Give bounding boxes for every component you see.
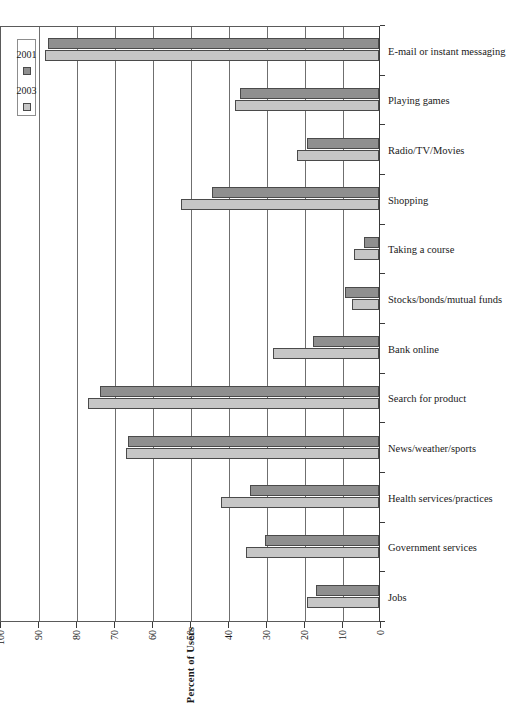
value-axis-tick-label: 100	[0, 630, 6, 645]
value-axis-tick-mark	[380, 622, 381, 628]
category-label: News/weather/sports	[388, 444, 476, 455]
bar-2001[interactable]	[128, 436, 379, 447]
bar-group	[1, 75, 379, 125]
category-axis-tick-mark	[380, 273, 385, 274]
bar-group	[1, 373, 379, 423]
value-axis-tick-mark	[266, 622, 267, 628]
category-label: Taking a course	[388, 246, 454, 257]
value-axis-tick-mark	[114, 622, 115, 628]
bar-group	[1, 472, 379, 522]
bar-2001[interactable]	[100, 386, 379, 397]
category-axis-tick-mark	[380, 25, 385, 26]
value-axis-tick-mark	[38, 622, 39, 628]
bar-2001[interactable]	[240, 88, 379, 99]
value-axis-tick-label: 20	[299, 630, 310, 640]
category-axis-tick-mark	[380, 373, 385, 374]
category-axis-tick-mark	[380, 571, 385, 572]
bar-2001[interactable]	[345, 287, 379, 298]
bar-2003[interactable]	[352, 299, 379, 310]
bar-group	[1, 26, 379, 75]
legend: 20032001	[17, 39, 36, 116]
plot-area: 20032001	[0, 26, 380, 622]
legend-label: 2003	[17, 85, 37, 96]
bar-group	[1, 323, 379, 373]
bar-2003[interactable]	[181, 199, 379, 210]
bar-2001[interactable]	[307, 138, 379, 149]
value-axis-tick-label: 50	[185, 630, 196, 640]
bar-group	[1, 422, 379, 472]
bar-group	[1, 124, 379, 174]
bar-2003[interactable]	[246, 547, 379, 558]
value-axis-tick-label: 0	[375, 630, 386, 635]
legend-entry[interactable]: 2001	[21, 44, 32, 75]
bar-2003[interactable]	[88, 398, 379, 409]
bar-2003[interactable]	[354, 249, 379, 260]
bar-2003[interactable]	[235, 100, 379, 111]
category-label: Jobs	[388, 593, 407, 604]
value-axis-tick-label: 60	[147, 630, 158, 640]
bar-group	[1, 522, 379, 572]
value-axis-tick-mark	[190, 622, 191, 628]
category-axis-tick-mark	[380, 621, 385, 622]
category-label: Health services/practices	[388, 494, 493, 505]
value-axis-title: Percent of Users	[0, 654, 380, 676]
bar-2001[interactable]	[316, 585, 379, 596]
bar-2003[interactable]	[307, 597, 379, 608]
value-axis-tick-label: 70	[109, 630, 120, 640]
legend-swatch-icon	[23, 103, 31, 111]
category-axis-tick-marks	[380, 26, 386, 622]
value-axis-tick-mark	[228, 622, 229, 628]
category-label: Government services	[388, 544, 477, 555]
category-axis-tick-mark	[380, 522, 385, 523]
bar-group	[1, 571, 379, 621]
value-axis-tick-label: 30	[261, 630, 272, 640]
category-label: Shopping	[388, 196, 428, 207]
value-axis-tick-label: 40	[223, 630, 234, 640]
category-label: Stocks/bonds/mutual funds	[388, 295, 502, 306]
legend-swatch-icon	[23, 67, 31, 75]
bar-2003[interactable]	[273, 348, 379, 359]
bar-2003[interactable]	[221, 497, 379, 508]
bar-2001[interactable]	[265, 535, 379, 546]
value-axis-tick-mark	[76, 622, 77, 628]
category-label: Playing games	[388, 97, 450, 108]
category-axis-tick-mark	[380, 323, 385, 324]
value-axis-tick-label: 80	[71, 630, 82, 640]
category-axis-tick-mark	[380, 75, 385, 76]
bar-2001[interactable]	[250, 485, 379, 496]
bar-group	[1, 273, 379, 323]
bar-2003[interactable]	[45, 50, 379, 61]
value-axis-tick-mark	[342, 622, 343, 628]
value-axis-tick-mark	[304, 622, 305, 628]
value-axis-tick-label: 90	[33, 630, 44, 640]
category-label: Radio/TV/Movies	[388, 146, 464, 157]
value-axis-tick-labels: 0102030405060708090100	[0, 628, 380, 654]
category-label: Search for product	[388, 395, 466, 406]
bar-2001[interactable]	[212, 187, 379, 198]
category-axis-tick-mark	[380, 224, 385, 225]
category-label: E-mail or instant messaging	[388, 47, 506, 58]
legend-label: 2001	[17, 49, 37, 60]
category-axis-tick-mark	[380, 422, 385, 423]
bar-2003[interactable]	[126, 448, 379, 459]
bar-group	[1, 174, 379, 224]
bar-2001[interactable]	[48, 38, 379, 49]
value-axis-tick-mark	[152, 622, 153, 628]
category-axis-tick-mark	[380, 472, 385, 473]
value-axis-tick-label: 10	[337, 630, 348, 640]
value-axis-tick-mark	[0, 622, 1, 628]
category-axis-tick-mark	[380, 174, 385, 175]
legend-entry[interactable]: 2003	[21, 80, 32, 111]
bar-2001[interactable]	[313, 336, 380, 347]
category-axis-tick-mark	[380, 124, 385, 125]
bar-2001[interactable]	[364, 237, 379, 248]
category-label: Bank online	[388, 345, 439, 356]
bar-group	[1, 224, 379, 274]
bar-2003[interactable]	[297, 150, 379, 161]
value-axis-tick-marks	[0, 622, 380, 628]
